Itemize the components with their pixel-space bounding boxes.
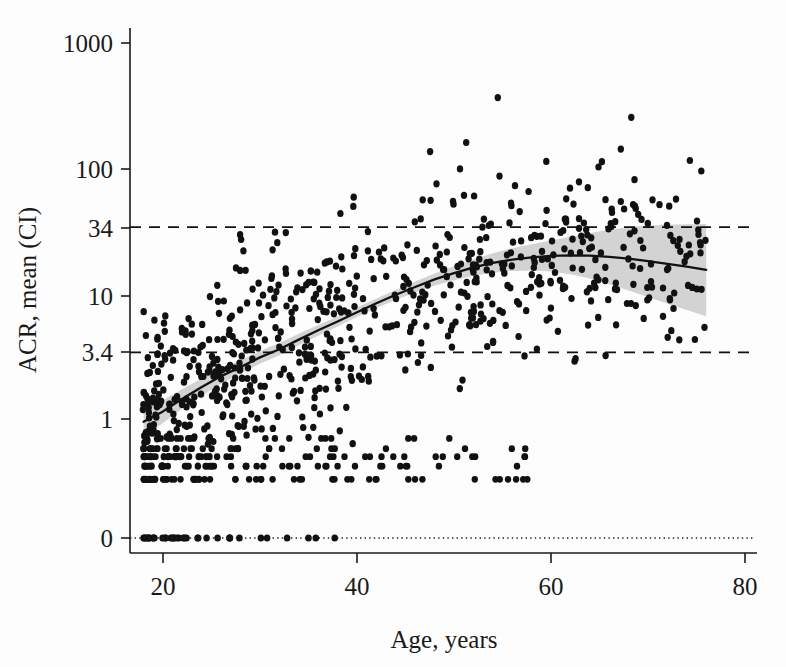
- data-point: [187, 363, 193, 370]
- data-point: [260, 292, 266, 299]
- data-point: [534, 345, 540, 352]
- data-point: [483, 234, 489, 241]
- data-point: [467, 321, 473, 328]
- data-point: [692, 336, 698, 343]
- data-point: [316, 285, 322, 292]
- data-point: [339, 265, 345, 272]
- data-point: [520, 476, 526, 483]
- data-point: [695, 231, 701, 238]
- data-point: [314, 445, 320, 452]
- data-point: [637, 265, 643, 272]
- data-point: [595, 314, 601, 321]
- data-point: [503, 322, 509, 329]
- data-point: [274, 413, 280, 420]
- data-point: [445, 332, 451, 339]
- data-point: [230, 435, 236, 442]
- data-point: [354, 273, 360, 280]
- data-point: [328, 445, 334, 452]
- data-point: [365, 247, 371, 254]
- data-point: [378, 255, 384, 262]
- data-point: [400, 283, 406, 290]
- data-point: [244, 299, 250, 306]
- data-point: [229, 412, 235, 419]
- data-point: [588, 297, 594, 304]
- data-point: [352, 245, 358, 252]
- data-point: [456, 304, 462, 311]
- data-point: [248, 411, 254, 418]
- data-point: [381, 244, 387, 251]
- data-point: [329, 339, 335, 346]
- data-point: [335, 385, 341, 392]
- data-point: [288, 309, 294, 316]
- data-point: [278, 328, 284, 335]
- data-point: [585, 184, 591, 191]
- data-point: [486, 222, 492, 229]
- data-point: [440, 266, 446, 273]
- data-point: [206, 336, 212, 343]
- data-point: [580, 238, 586, 245]
- data-point: [350, 203, 356, 210]
- data-point: [576, 225, 582, 232]
- data-point: [490, 317, 496, 324]
- data-point: [239, 352, 245, 359]
- data-point: [312, 387, 318, 394]
- data-point: [664, 266, 670, 273]
- figure-root: 100010034103.410 20406080 Age, years ACR…: [0, 0, 786, 667]
- data-point: [144, 453, 150, 460]
- data-point: [216, 310, 222, 317]
- data-point: [147, 423, 153, 430]
- data-point: [441, 291, 447, 298]
- data-point: [531, 264, 537, 271]
- data-point: [174, 426, 180, 433]
- data-point: [177, 476, 183, 483]
- data-point: [184, 463, 190, 470]
- data-point: [255, 344, 261, 351]
- data-point: [544, 317, 550, 324]
- data-point: [660, 284, 666, 291]
- data-point: [167, 453, 173, 460]
- data-point: [248, 330, 254, 337]
- data-point: [256, 329, 262, 336]
- data-point: [326, 288, 332, 295]
- data-point: [481, 216, 487, 223]
- data-point: [249, 344, 255, 351]
- data-point: [400, 307, 406, 314]
- data-point: [296, 359, 302, 366]
- data-point: [490, 338, 496, 345]
- data-point: [161, 320, 167, 327]
- data-point: [335, 378, 341, 385]
- data-point: [484, 293, 490, 300]
- data-point: [337, 337, 343, 344]
- data-point: [602, 264, 608, 271]
- data-point: [365, 373, 371, 380]
- data-point: [323, 308, 329, 315]
- data-point: [562, 216, 568, 223]
- data-point: [143, 332, 149, 339]
- data-point: [162, 312, 168, 319]
- data-point: [241, 423, 247, 430]
- data-point: [241, 340, 247, 347]
- data-point: [190, 356, 196, 363]
- data-point: [433, 453, 439, 460]
- data-point: [697, 239, 703, 246]
- data-point: [522, 445, 528, 452]
- data-point: [492, 476, 498, 483]
- data-point: [449, 322, 455, 329]
- data-point: [201, 476, 207, 483]
- data-point: [310, 424, 316, 431]
- data-point: [560, 285, 566, 292]
- data-point: [378, 453, 384, 460]
- data-point: [202, 463, 208, 470]
- data-point: [428, 300, 434, 307]
- data-point: [242, 388, 248, 395]
- data-point: [484, 343, 490, 350]
- data-point: [195, 534, 201, 541]
- y-tick-label: 10: [88, 283, 113, 310]
- data-point: [270, 425, 276, 432]
- data-point: [289, 320, 295, 327]
- data-point: [143, 392, 149, 399]
- data-point: [464, 279, 470, 286]
- data-point: [263, 407, 269, 414]
- data-point: [275, 282, 281, 289]
- data-point: [701, 324, 707, 331]
